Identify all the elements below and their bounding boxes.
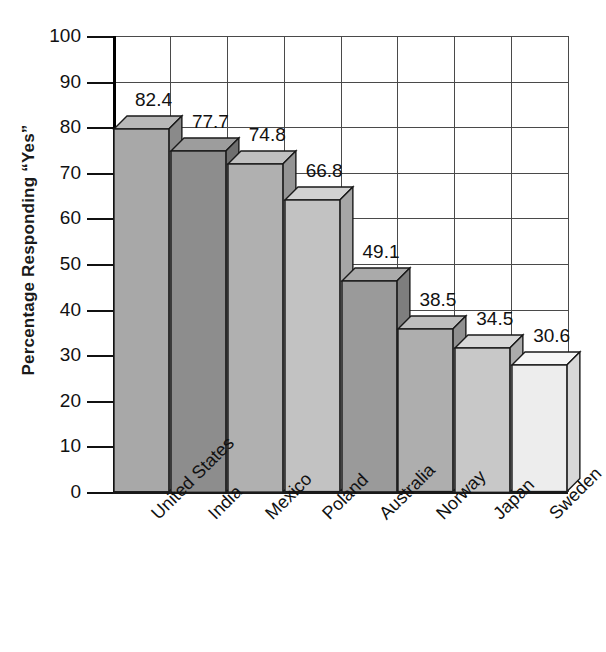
y-axis-tick: [87, 310, 113, 312]
y-axis-tick: [87, 264, 113, 266]
y-axis-tick-label: 40: [41, 300, 81, 319]
y-axis-tick-label: 90: [41, 72, 81, 91]
y-axis-tick-label: 60: [41, 208, 81, 227]
bar-front-face: [512, 365, 567, 492]
bar-value-label: 77.7: [192, 112, 229, 131]
bar-front-face: [285, 200, 340, 492]
y-axis-tick-label: 80: [41, 117, 81, 136]
y-axis-tick: [87, 492, 113, 494]
y-axis-tick: [87, 218, 113, 220]
y-axis-tick: [87, 173, 113, 175]
bar-front-face: [114, 129, 169, 492]
y-axis-tick-label: 10: [41, 436, 81, 455]
bar-sweden: [512, 352, 580, 492]
bar-value-label: 38.5: [419, 290, 456, 309]
bar-value-label: 49.1: [363, 242, 400, 261]
bar-value-label: 30.6: [533, 326, 570, 345]
y-axis-tick: [87, 82, 113, 84]
y-axis-tick-label: 30: [41, 345, 81, 364]
bar-front-face: [342, 281, 397, 492]
y-axis-tick-label: 50: [41, 254, 81, 273]
bar-side-face: [567, 352, 580, 492]
bar-value-label: 66.8: [306, 161, 343, 180]
bar-value-label: 74.8: [249, 125, 286, 144]
bar-front-face: [228, 164, 283, 492]
y-axis-tick: [87, 355, 113, 357]
y-axis-tick: [87, 401, 113, 403]
bar-front-face: [455, 348, 510, 492]
y-axis-tick: [87, 446, 113, 448]
y-axis-tick: [87, 36, 113, 38]
bar-value-label: 82.4: [135, 90, 172, 109]
bar-value-label: 34.5: [476, 309, 513, 328]
y-axis-tick-label: 70: [41, 163, 81, 182]
y-axis-tick-label: 20: [41, 391, 81, 410]
y-axis-tick: [87, 127, 113, 129]
y-axis-tick-label: 100: [41, 26, 81, 45]
y-axis-tick-label: 0: [41, 482, 81, 501]
